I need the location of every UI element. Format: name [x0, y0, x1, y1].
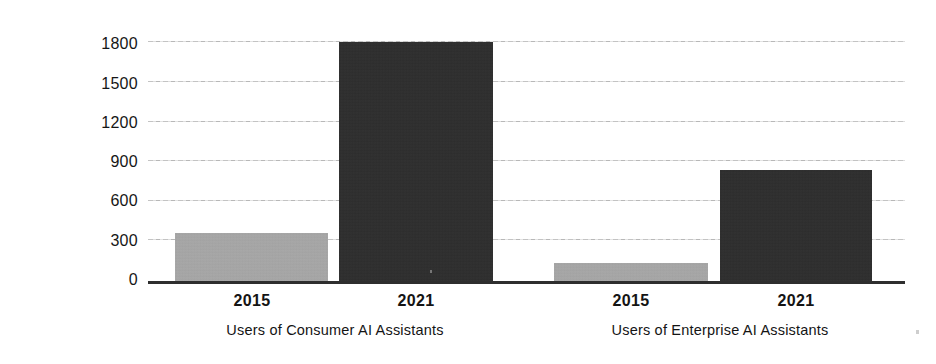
y-axis-tick-labels: 0 300 600 900 1200 1500 1800	[48, 30, 138, 284]
bar-consumer-2021[interactable]	[339, 42, 493, 284]
x-tick-consumer-2015: 2015	[175, 292, 329, 310]
x-axis-line	[148, 281, 905, 284]
scan-speck	[916, 330, 919, 334]
y-tick-600: 600	[58, 193, 138, 209]
y-tick-0: 0	[58, 272, 138, 288]
y-tick-300: 300	[58, 233, 138, 249]
y-tick-1200: 1200	[58, 115, 138, 131]
group-label-consumer: Users of Consumer AI Assistants	[150, 322, 520, 338]
gridline-1500	[148, 81, 905, 82]
gridline-1800	[148, 41, 905, 42]
plot-area	[148, 30, 905, 284]
y-tick-1800: 1800	[58, 36, 138, 52]
y-tick-1500: 1500	[58, 76, 138, 92]
bar-chart: Unique Users (m) 0 300 600 900 1200 1500…	[0, 0, 936, 364]
x-tick-enterprise-2021: 2021	[720, 292, 872, 310]
bar-enterprise-2021[interactable]	[720, 170, 872, 284]
x-tick-consumer-2021: 2021	[339, 292, 493, 310]
bar-consumer-2015[interactable]	[175, 233, 328, 284]
scan-speck	[430, 270, 432, 273]
x-tick-enterprise-2015: 2015	[554, 292, 708, 310]
gridline-900	[148, 160, 905, 161]
y-tick-900: 900	[58, 154, 138, 170]
gridline-1200	[148, 121, 905, 122]
group-label-enterprise: Users of Enterprise AI Assistants	[525, 322, 915, 338]
